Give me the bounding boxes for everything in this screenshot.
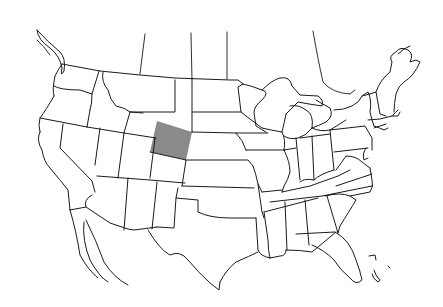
canada-province-lines (140, 31, 355, 94)
map-svg (0, 0, 443, 307)
caribbean-islands (369, 255, 390, 282)
highlighted-state-wyoming (150, 121, 192, 160)
us-outline-map (0, 0, 443, 307)
state-borders (38, 46, 420, 290)
